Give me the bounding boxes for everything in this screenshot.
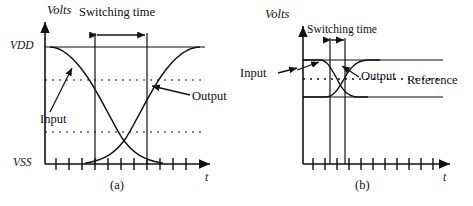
figure-root: Volts Switching time VDD VSS Input Outpu… <box>0 0 473 206</box>
panel-b-y-axis-label: Volts <box>265 8 289 21</box>
panel-a <box>45 22 210 170</box>
panel-b-output-label: Output <box>361 70 396 83</box>
panel-a-output-label: Output <box>192 90 227 103</box>
panel-a-caption: (a) <box>110 179 124 192</box>
panel-a-x-axis-label: t <box>205 172 208 184</box>
panel-b-caption: (b) <box>355 179 370 192</box>
panel-a-input-curve <box>50 47 163 163</box>
panel-b-x-axis-label: t <box>443 172 446 184</box>
panel-b-input-leader-arrow2 <box>297 62 319 70</box>
panel-b-switching-time-label: Switching time <box>307 24 377 36</box>
panel-a-switching-time-label: Switching time <box>79 6 155 19</box>
panel-a-output-curve <box>85 47 200 163</box>
panel-a-vdd-label: VDD <box>10 40 34 52</box>
figure-canvas <box>0 0 473 206</box>
panel-a-y-axis-label: Volts <box>47 4 71 17</box>
panel-a-vss-label: VSS <box>13 157 32 169</box>
panel-a-input-label: Input <box>40 113 66 126</box>
panel-b-input-leader-arrow <box>278 68 297 73</box>
panel-b-input-label: Input <box>240 67 266 80</box>
panel-a-output-leader-arrow <box>152 86 190 95</box>
panel-a-input-leader-arrow <box>50 68 72 112</box>
panel-b-reference-label: Reference <box>407 74 458 87</box>
panel-b <box>278 26 450 170</box>
